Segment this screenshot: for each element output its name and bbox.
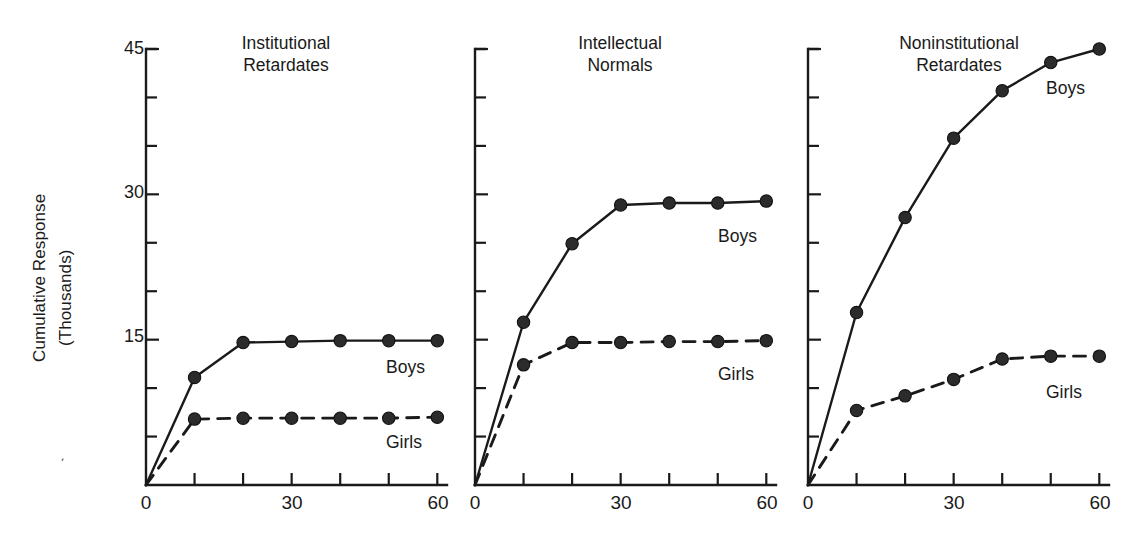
data-point — [237, 412, 249, 424]
data-point — [188, 371, 200, 383]
data-point — [517, 359, 529, 371]
data-point — [760, 195, 772, 207]
data-point — [188, 413, 200, 425]
data-point — [285, 335, 297, 347]
data-point — [566, 336, 578, 348]
data-point — [383, 412, 395, 424]
panel-2-axes — [475, 49, 776, 485]
data-point — [431, 411, 443, 423]
data-point — [614, 336, 626, 348]
data-point — [996, 353, 1008, 365]
plot-area — [0, 0, 1135, 551]
data-point — [1093, 43, 1105, 55]
series-line-boys — [808, 49, 1099, 485]
data-point — [712, 335, 724, 347]
data-point — [947, 373, 959, 385]
data-point — [1045, 350, 1057, 362]
data-point — [996, 84, 1008, 96]
figure-canvas: Cumulative Response (Thousands) ' 45 30 … — [0, 0, 1135, 551]
data-point — [334, 412, 346, 424]
data-point — [899, 390, 911, 402]
data-point — [663, 197, 675, 209]
data-point — [663, 335, 675, 347]
data-point — [947, 132, 959, 144]
data-point — [1045, 56, 1057, 68]
data-point — [760, 334, 772, 346]
data-point — [614, 199, 626, 211]
data-point — [517, 316, 529, 328]
data-point — [850, 306, 862, 318]
data-point — [1093, 350, 1105, 362]
data-point — [899, 211, 911, 223]
data-point — [383, 334, 395, 346]
data-point — [285, 412, 297, 424]
data-point — [850, 404, 862, 416]
data-point — [431, 334, 443, 346]
data-point — [237, 336, 249, 348]
data-point — [334, 334, 346, 346]
panel-1-axes — [146, 49, 447, 485]
data-point — [566, 238, 578, 250]
panel-3-axes — [808, 43, 1109, 485]
data-point — [712, 197, 724, 209]
